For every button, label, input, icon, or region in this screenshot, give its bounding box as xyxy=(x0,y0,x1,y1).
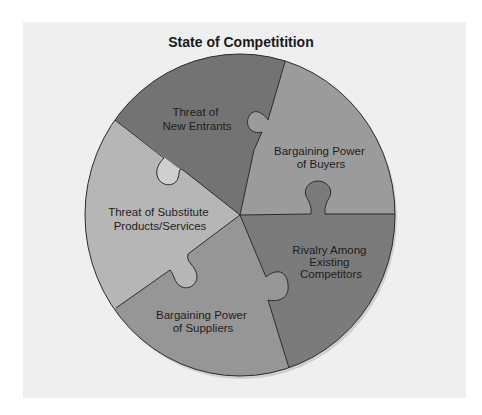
puzzle-circle: Threat of New Entrants Bargaining Power … xyxy=(0,0,482,415)
